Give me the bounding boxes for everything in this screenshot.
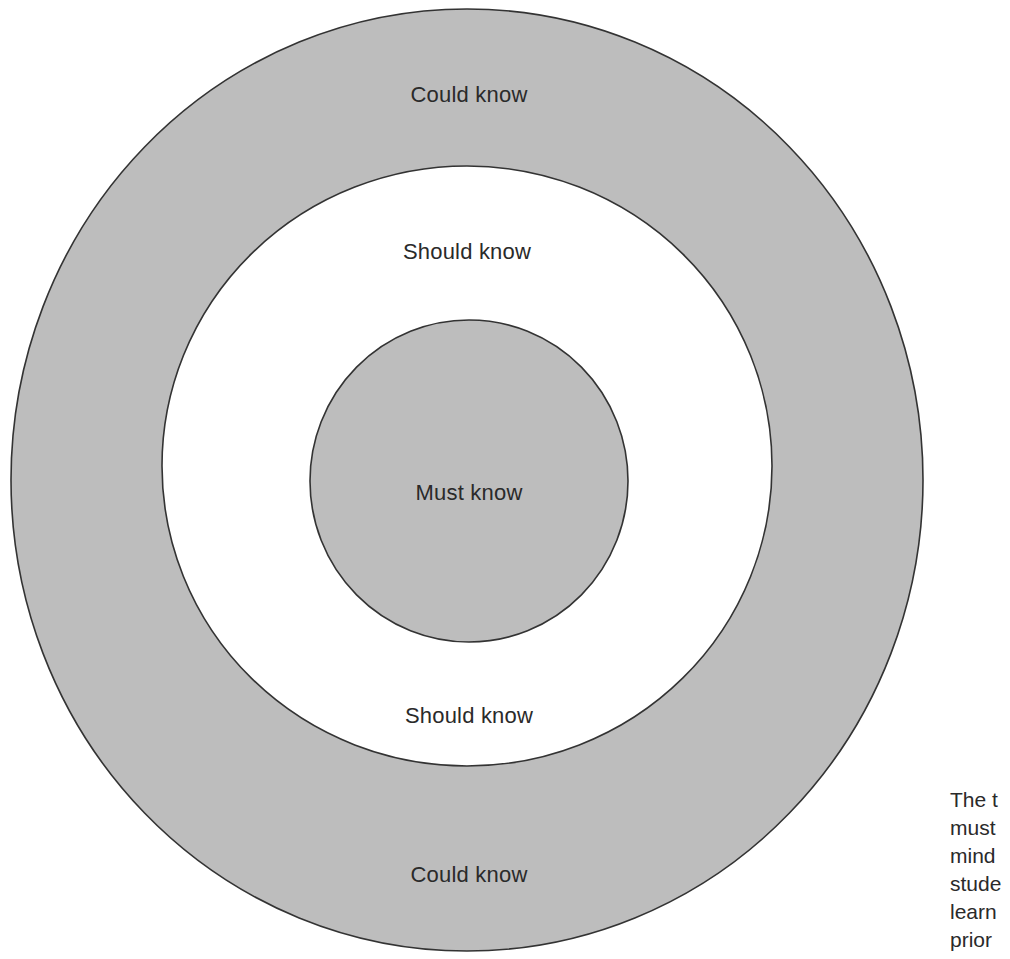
figure-caption: The t must mind stude learn prior <box>950 786 1010 954</box>
caption-line: mind <box>950 842 1010 870</box>
caption-line: stude <box>950 870 1010 898</box>
must-should-could-know-diagram: Could know Should know Must know Should … <box>0 0 1010 959</box>
could-know-label-top: Could know <box>411 84 528 106</box>
caption-line: must <box>950 814 1010 842</box>
could-know-label-bottom: Could know <box>411 864 528 886</box>
caption-line: learn <box>950 898 1010 926</box>
must-know-label: Must know <box>416 482 523 504</box>
caption-line: prior <box>950 926 1010 954</box>
caption-line: The t <box>950 786 1010 814</box>
should-know-label-top: Should know <box>403 241 531 263</box>
should-know-label-bottom: Should know <box>405 705 533 727</box>
